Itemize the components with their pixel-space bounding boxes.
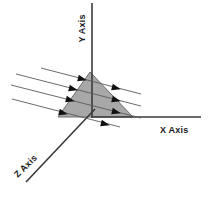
x-axis-label: X Axis xyxy=(160,126,188,135)
diagram-canvas xyxy=(0,0,210,197)
axes-diagram: Y Axis X Axis Z Axis xyxy=(0,0,210,197)
y-axis-label: Y Axis xyxy=(78,14,87,42)
z-axis-line xyxy=(26,109,95,182)
